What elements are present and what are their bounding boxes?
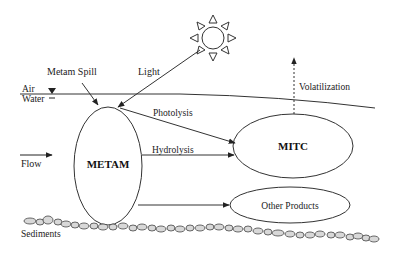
flow-label: Flow [21,158,42,169]
volatilization-label: Volatilization [299,82,350,92]
sediments-label: Sediments [21,229,61,239]
water-label: Water [22,94,45,104]
light-arrow [118,50,200,107]
other-products-node-label: Other Products [261,201,319,211]
sun-icon [190,15,236,61]
diagram-canvas: Metam Spill Light Air Water Photolysis H… [0,0,394,257]
photolysis-label: Photolysis [153,108,193,118]
mitc-node-label: MITC [278,140,308,152]
hydrolysis-label: Hydrolysis [152,145,194,155]
air-label: Air [22,84,36,94]
metam-spill-label: Metam Spill [47,66,97,77]
metam-node-label: METAM [87,158,130,170]
water-level-marker-icon [48,88,56,98]
light-label: Light [138,66,160,77]
water-surface-line [20,94,375,108]
